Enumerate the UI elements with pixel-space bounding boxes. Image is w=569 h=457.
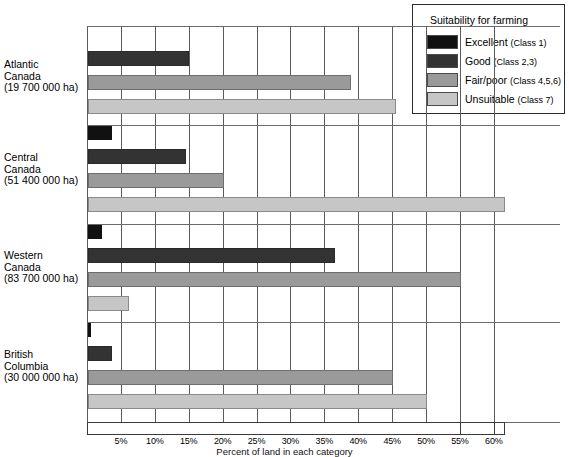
group-label-british-columbia: British Columbia (30 000 000 ha) [4, 349, 86, 384]
group-label-central-canada: Central Canada (51 400 000 ha) [4, 152, 86, 187]
bar-british-columbia-fair [88, 370, 393, 385]
bar-atlantic-canada-good [88, 51, 189, 66]
x-axis-title: Percent of land in each category [0, 446, 569, 457]
tick-label-60pct: 60% [474, 436, 514, 446]
bar-western-canada-fair [88, 272, 461, 287]
bar-british-columbia-good [88, 346, 112, 361]
bar-atlantic-canada-unsuitable [88, 99, 396, 114]
axis-box [87, 422, 505, 435]
group-separator-1 [87, 125, 560, 126]
bar-central-canada-excellent [88, 125, 112, 140]
plot-top-border [87, 26, 560, 27]
group-separator-2 [87, 224, 560, 225]
bar-central-canada-fair [88, 173, 224, 188]
tick-55pct [460, 422, 461, 435]
bar-western-canada-unsuitable [88, 296, 129, 311]
bar-western-canada-excellent [88, 224, 102, 239]
bar-british-columbia-excellent [88, 322, 91, 337]
group-label-western-canada: Western Canada (83 700 000 ha) [4, 250, 86, 285]
bar-western-canada-good [88, 248, 335, 263]
group-label-atlantic-canada: Atlantic Canada (19 700 000 ha) [4, 59, 86, 94]
legend-title: Suitability for farming [430, 14, 528, 26]
bar-central-canada-unsuitable [88, 197, 505, 212]
group-separator-3 [87, 322, 560, 323]
bar-atlantic-canada-fair [88, 75, 351, 90]
bar-british-columbia-unsuitable [88, 394, 427, 409]
tick-60pct [494, 422, 495, 435]
bar-central-canada-good [88, 149, 186, 164]
